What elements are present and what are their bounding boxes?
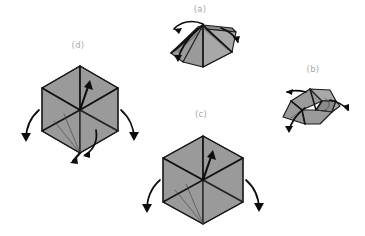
- panel-label-c: (c): [195, 109, 207, 119]
- origami-sequence-diagram: (a): [0, 0, 365, 236]
- panel-label-a: (a): [194, 4, 207, 14]
- panel-label-d: (d): [72, 40, 85, 50]
- figure-canvas: (a): [0, 0, 365, 236]
- panel-label-b: (b): [307, 64, 320, 74]
